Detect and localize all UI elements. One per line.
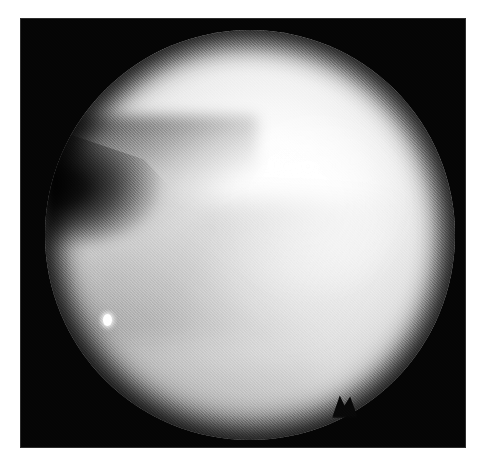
endoscope-field-of-view (45, 30, 455, 440)
tibial-plateau-shading (45, 220, 315, 434)
illumination-hotspot (213, 118, 403, 294)
arthroscopic-figure: Arthroscopy (0, 0, 486, 468)
femoral-condyle-undershadow (47, 116, 257, 236)
specular-dot-icon (79, 369, 82, 372)
meniscal-margin-shadow (85, 200, 415, 340)
image-plate (20, 18, 466, 448)
joint-space-cleft (45, 126, 195, 266)
vignette-overlay (45, 30, 455, 440)
specular-highlight-icon (103, 314, 112, 326)
